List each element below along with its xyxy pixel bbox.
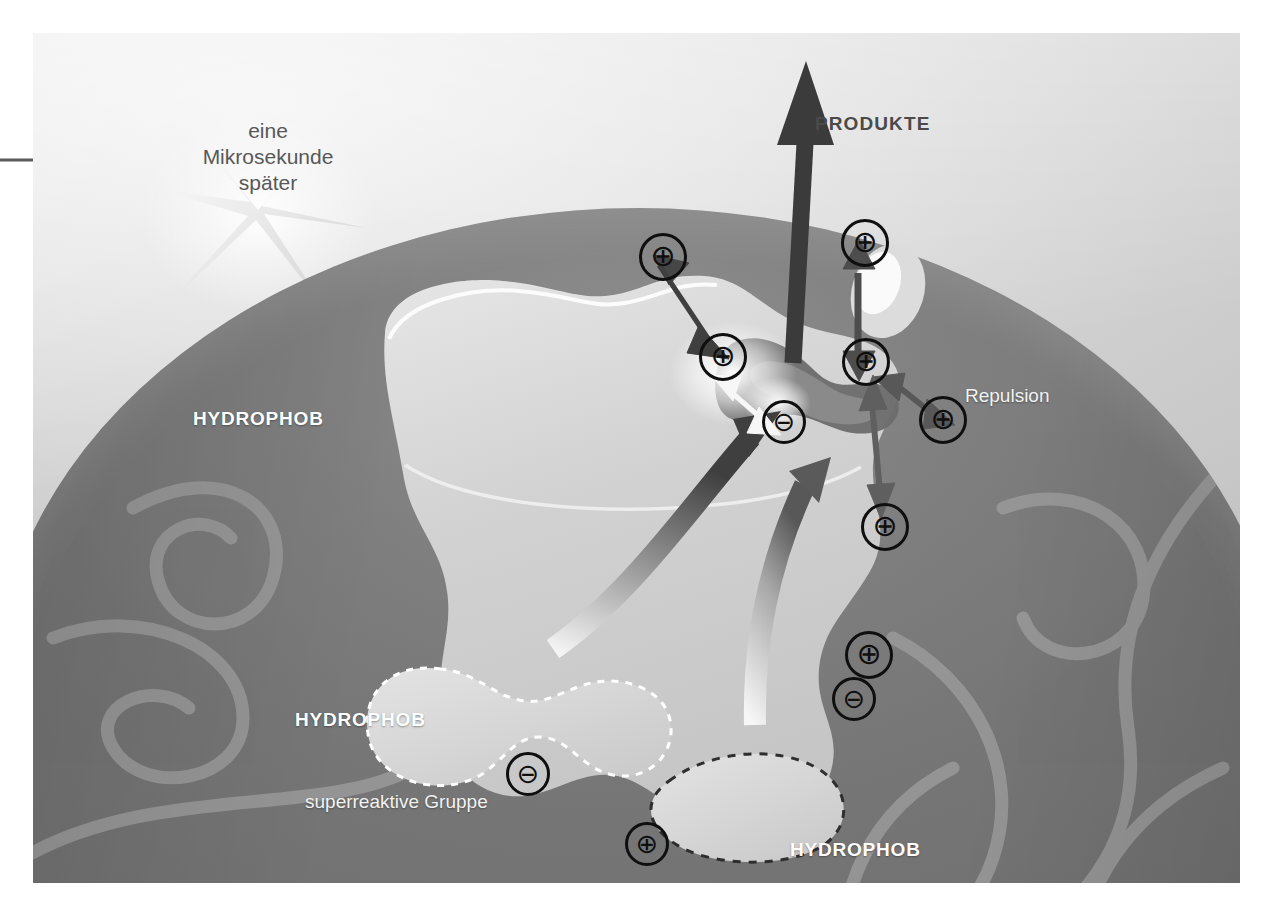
charge-plus-bottom-icon: ⊕ xyxy=(625,822,669,866)
charge-plus-center-right-icon: ⊕ xyxy=(842,338,890,386)
charge-plus-center-left-icon: ⊕ xyxy=(699,333,747,381)
charge-minus-center-icon: ⊖ xyxy=(762,400,806,444)
charge-plus-outer-right-icon: ⊕ xyxy=(845,631,893,679)
timing-line-2: Mikrosekunde xyxy=(183,144,353,170)
charge-plus-lower-right-icon: ⊕ xyxy=(861,503,909,551)
charge-minus-outer-right-icon: ⊖ xyxy=(832,677,876,721)
charge-plus-far-right-icon: ⊕ xyxy=(919,396,967,444)
figure-root: eine Mikrosekunde später PRODUKTE Repuls… xyxy=(0,0,1266,904)
timing-line-3: später xyxy=(183,170,353,196)
charge-plus-top-right-icon: ⊕ xyxy=(841,219,889,267)
timing-caption: eine Mikrosekunde später xyxy=(183,118,353,196)
hydrophob-label-lower-left: HYDROPHOB xyxy=(295,709,426,731)
timing-line-1: eine xyxy=(183,118,353,144)
products-label: PRODUKTE xyxy=(815,113,930,135)
hydrophob-label-upper-left: HYDROPHOB xyxy=(193,408,324,430)
charge-plus-upper-left-icon: ⊕ xyxy=(639,233,687,281)
hydrophob-label-lower-right: HYDROPHOB xyxy=(790,839,921,861)
illustration-panel: eine Mikrosekunde später PRODUKTE Repuls… xyxy=(33,33,1240,883)
superreactive-group-label: superreaktive Gruppe xyxy=(305,791,488,813)
repulsion-label: Repulsion xyxy=(965,385,1050,407)
charge-minus-bottom-left-icon: ⊖ xyxy=(506,752,550,796)
